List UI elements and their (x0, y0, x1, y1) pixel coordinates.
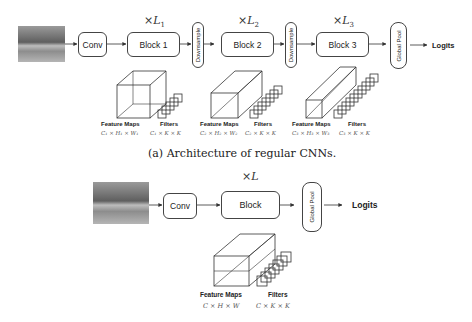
feature-maps-dims-1: C₁ × H₁ × W₁ (101, 130, 138, 136)
logits-label-b: Logits (352, 200, 378, 210)
block-1-label: Block 1 (140, 40, 168, 50)
block-2-box: Block 2 (221, 32, 274, 57)
block-3-box: Block 3 (316, 32, 369, 57)
logits-label: Logits (432, 41, 455, 50)
filters-label-2: Filters (254, 121, 272, 127)
feature-maps-label-1: Feature Maps (101, 121, 140, 127)
feature-maps-label-2: Feature Maps (200, 121, 239, 127)
block-2-label: Block 2 (234, 40, 262, 50)
filters-dims-3: C₃ × K × K (339, 130, 370, 136)
conv-label-b: Conv (170, 201, 190, 211)
feature-maps-dims-3: C₃ × H₃ × W₃ (292, 130, 329, 136)
feature-maps-dims-b: C × H × W (203, 302, 239, 310)
filters-dims-1: C₁ × K × K (150, 130, 181, 136)
filters-label-1: Filters (160, 121, 178, 127)
downsample-box-1: Downsample (192, 22, 204, 68)
downsample-box-2: Downsample (285, 22, 297, 68)
global-pool-box-b: Global Pool (302, 182, 322, 232)
input-image (18, 26, 65, 62)
block-1-box: Block 1 (127, 32, 180, 57)
feature-maps-label-3: Feature Maps (292, 121, 331, 127)
feature-maps-label-b: Feature Maps (200, 291, 242, 298)
filters-stack-1 (158, 94, 182, 118)
block-2-multiplier: ×L2 (238, 14, 259, 29)
filters-label-b: Filters (268, 291, 288, 298)
filters-stack (257, 252, 291, 286)
downsample-label: Downsample (195, 28, 201, 63)
downsample-label: Downsample (288, 28, 294, 63)
conv-label: Conv (83, 40, 103, 50)
conv-box: Conv (78, 32, 107, 57)
input-image-b (93, 182, 149, 224)
feature-maps-dims-2: C₂ × H₂ × W₂ (200, 130, 237, 136)
filters-dims-2: C₂ × K × K (245, 130, 276, 136)
block-3-label: Block 3 (329, 40, 357, 50)
filters-dims-b: C × K × K (256, 302, 290, 310)
filters-stack-2 (250, 86, 282, 118)
global-pool-box: Global Pool (390, 22, 407, 69)
global-pool-label-b: Global Pool (309, 191, 315, 222)
block-box-b: Block (221, 191, 280, 219)
block-3-multiplier: ×L3 (333, 14, 354, 29)
caption-a: (a) Architecture of regular CNNs. (148, 147, 336, 160)
global-pool-label: Global Pool (396, 30, 402, 61)
block-1-multiplier: ×L1 (144, 14, 165, 29)
feature-map-cube-1 (117, 71, 166, 118)
block-multiplier-b: ×L (242, 170, 259, 183)
filters-label-3: Filters (348, 121, 366, 127)
conv-box-b: Conv (163, 193, 197, 219)
block-label-b: Block (239, 200, 261, 210)
